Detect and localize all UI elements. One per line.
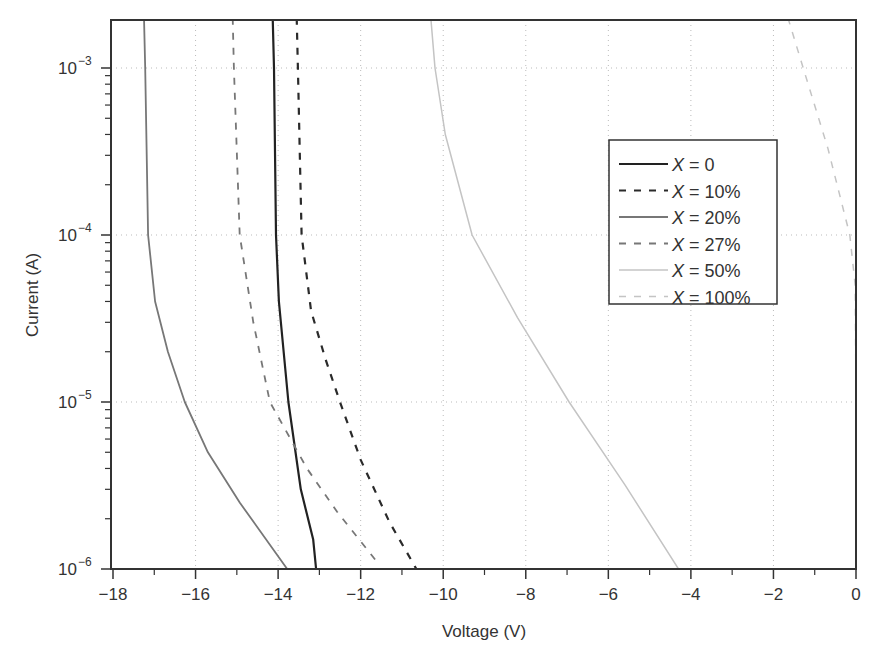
y-tick-label: 10 xyxy=(58,560,77,579)
y-tick-label: 10 xyxy=(58,226,77,245)
series-line xyxy=(297,18,417,569)
x-tick-label: −4 xyxy=(681,585,700,604)
y-tick-exponent: −5 xyxy=(78,388,92,402)
x-tick-label: −8 xyxy=(516,585,535,604)
x-tick-label: −6 xyxy=(599,585,618,604)
x-tick-label: −10 xyxy=(429,585,458,604)
legend-label: X = 27% xyxy=(671,235,741,255)
series-line xyxy=(788,18,856,569)
x-tick-label: −18 xyxy=(99,585,128,604)
y-tick-label: 10 xyxy=(58,59,77,78)
legend-label: X = 10% xyxy=(671,182,741,202)
legend: X = 0X = 10%X = 20%X = 27%X = 50%X = 100… xyxy=(609,140,777,308)
x-tick-label: −16 xyxy=(181,585,210,604)
series-line xyxy=(233,18,378,562)
x-tick-label: −2 xyxy=(764,585,783,604)
legend-label: X = 0 xyxy=(671,155,715,175)
iv-curve-chart: −18−16−14−12−10−8−6−4−20 10−610−510−410−… xyxy=(0,0,878,653)
y-axis-title: Current (A) xyxy=(23,253,42,337)
legend-label: X = 50% xyxy=(671,261,741,281)
y-tick-exponent: −6 xyxy=(78,555,92,569)
y-tick-exponent: −3 xyxy=(78,54,92,68)
series-line xyxy=(144,18,287,569)
legend-label: X = 20% xyxy=(671,208,741,228)
x-tick-label: 0 xyxy=(851,585,860,604)
legend-label: X = 100% xyxy=(671,288,751,308)
x-tick-labels: −18−16−14−12−10−8−6−4−20 xyxy=(99,585,861,604)
x-tick-label: −14 xyxy=(264,585,293,604)
y-tick-label: 10 xyxy=(58,393,77,412)
y-tick-exponent: −4 xyxy=(78,221,92,235)
x-axis-title: Voltage (V) xyxy=(442,622,526,641)
x-tick-label: −12 xyxy=(346,585,375,604)
y-tick-labels: 10−610−510−410−3 xyxy=(58,54,92,579)
